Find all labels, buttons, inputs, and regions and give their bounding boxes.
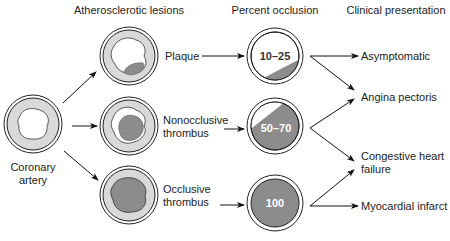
clinical-label-angina-pectoris: Angina pectoris (361, 91, 437, 103)
coronary-artery-cross-section (4, 95, 62, 153)
lesion-label-occlusive-line2: thrombus (163, 196, 209, 208)
header-clinical-presentation: Clinical presentation (346, 4, 445, 16)
occlusion-value-10-25: 10–25 (260, 50, 291, 62)
plaque-cross-section (100, 27, 158, 85)
occlusion-value-100: 100 (266, 197, 284, 209)
occlusion-value-50-70: 50–70 (261, 122, 292, 134)
coronary-artery-label-line2: artery (19, 174, 48, 186)
clinical-label-myocardial-infarct: Myocardial infarct (361, 200, 447, 212)
arrow-50-70-to-chf (310, 128, 354, 161)
atherosclerosis-diagram: Atherosclerotic lesions Percent occlusio… (0, 0, 450, 241)
nonocclusive-thrombus-cross-section (100, 97, 158, 155)
arrow-50-70-to-angina (310, 99, 354, 128)
arrow-100-to-chf (310, 170, 354, 206)
clinical-label-asymptomatic: Asymptomatic (361, 50, 431, 62)
clinical-label-chf-line1: Congestive heart (361, 150, 444, 162)
occlusive-thrombus-cross-section (100, 166, 158, 224)
lesion-label-nonocclusive-line1: Nonocclusive (163, 114, 228, 126)
header-atherosclerotic-lesions: Atherosclerotic lesions (74, 4, 185, 16)
header-percent-occlusion: Percent occlusion (232, 4, 319, 16)
lesion-label-occlusive-line1: Occlusive (163, 183, 211, 195)
coronary-artery-label-line1: Coronary (10, 161, 56, 173)
lesion-label-nonocclusive-line2: thrombus (163, 127, 209, 139)
arrow-to-occlusive (64, 151, 98, 180)
arrow-to-plaque (63, 72, 96, 103)
clinical-label-chf-line2: failure (361, 163, 391, 175)
arrow-10-25-to-angina (310, 56, 354, 90)
lesion-label-plaque: Plaque (165, 50, 199, 62)
